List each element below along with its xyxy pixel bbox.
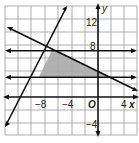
x-axis-label: x <box>128 99 135 110</box>
x-tick-neg8: −8 <box>35 99 47 110</box>
x-tick-neg4: −4 <box>62 99 74 110</box>
y-tick-12: 12 <box>86 17 98 28</box>
origin-label: O <box>88 99 96 110</box>
x-tick-4: 4 <box>121 99 127 110</box>
y-tick-neg4: −4 <box>86 119 98 130</box>
y-axis-label: y <box>101 3 108 14</box>
graph: y 12 8 −4 −8 −4 O 4 x <box>0 0 139 143</box>
y-tick-8: 8 <box>90 41 96 52</box>
